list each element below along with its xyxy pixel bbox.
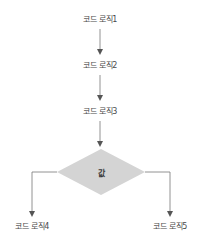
arrow-decision-to-step5 (145, 172, 170, 213)
arrow-decision-to-step4 (32, 172, 57, 213)
node-step4-label: 코드 로직4 (15, 222, 49, 232)
node-step1-label: 코드 로직1 (83, 15, 117, 25)
node-step2-label: 코드 로직2 (83, 61, 117, 71)
flowchart-canvas (0, 0, 205, 245)
decision-label: 값 (98, 167, 105, 178)
node-step5-label: 코드 로직5 (153, 222, 187, 232)
node-step3-label: 코드 로직3 (83, 107, 117, 117)
